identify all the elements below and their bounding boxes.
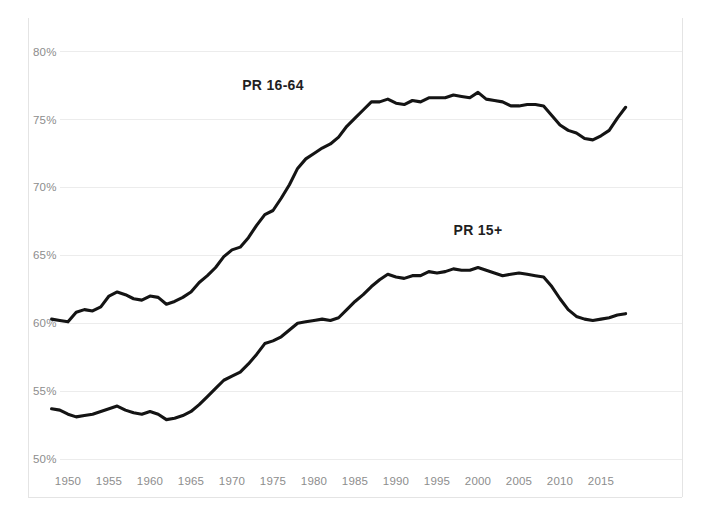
- x-tick-label: 1995: [424, 475, 450, 487]
- y-tick-label: 75%: [33, 114, 57, 126]
- x-tick-label: 1985: [342, 475, 368, 487]
- series-line-pr-16-64: [52, 92, 626, 322]
- x-tick-label: 2005: [506, 475, 532, 487]
- x-tick-label: 1965: [178, 475, 204, 487]
- x-tick-label: 2015: [588, 475, 614, 487]
- y-tick-label: 55%: [33, 385, 57, 397]
- x-tick-label: 2000: [465, 475, 491, 487]
- y-tick-label: 65%: [33, 249, 57, 261]
- x-tick-label: 1955: [96, 475, 122, 487]
- series-label-pr-15: PR 15+: [454, 222, 503, 238]
- x-tick-label: 1950: [55, 475, 81, 487]
- y-tick-label: 70%: [33, 181, 57, 193]
- x-tick-label: 2010: [547, 475, 573, 487]
- x-tick-label: 1990: [383, 475, 409, 487]
- x-tick-label: 1975: [260, 475, 286, 487]
- x-tick-label: 1960: [137, 475, 163, 487]
- x-tick-label: 1980: [301, 475, 327, 487]
- data-series-group: [52, 92, 626, 419]
- y-tick-label: 80%: [33, 46, 57, 58]
- chart-frame: [28, 18, 682, 497]
- x-axis-tick-labels: 1950195519601965197019751980198519901995…: [55, 475, 614, 487]
- series-line-pr-15: [52, 268, 626, 420]
- y-tick-label: 50%: [33, 453, 57, 465]
- y-axis-tick-labels: 50%55%60%65%70%75%80%: [33, 46, 57, 465]
- chart-plot-area: 50%55%60%65%70%75%80% 195019551960196519…: [0, 0, 706, 520]
- series-label-pr-16-64: PR 16-64: [242, 77, 304, 93]
- line-chart-container: 50%55%60%65%70%75%80% 195019551960196519…: [0, 0, 706, 520]
- gridlines-group: [60, 52, 682, 459]
- x-tick-label: 1970: [219, 475, 245, 487]
